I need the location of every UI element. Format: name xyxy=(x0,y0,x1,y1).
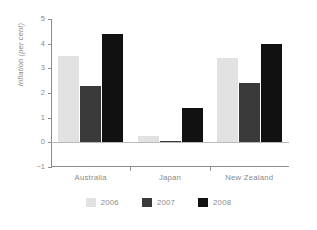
bar xyxy=(239,83,260,142)
legend-label: 2007 xyxy=(157,199,175,207)
y-tick-mark xyxy=(48,118,52,119)
legend-swatch-icon xyxy=(142,198,152,207)
y-tick-mark xyxy=(48,44,52,45)
bar xyxy=(182,108,203,143)
x-tick-mark xyxy=(130,167,131,171)
y-tick-label: 0 xyxy=(41,139,45,147)
y-tick-label: 1 xyxy=(41,114,45,122)
x-axis-line xyxy=(51,166,289,167)
x-axis-category-label: Australia xyxy=(75,173,107,182)
inflation-bar-chart: Inflation (per cent) 543210−1 2006200720… xyxy=(0,0,317,230)
bar xyxy=(80,86,101,143)
y-axis-title: Inflation (per cent) xyxy=(16,0,25,115)
chart-legend: 200620072008 xyxy=(0,198,317,207)
y-tick-mark xyxy=(48,68,52,69)
plot-area: 543210−1 xyxy=(51,19,289,167)
legend-label: 2006 xyxy=(101,199,119,207)
x-axis-category-label: Japan xyxy=(159,173,181,182)
legend-swatch-icon xyxy=(198,198,208,207)
bar xyxy=(217,58,238,142)
x-axis-category-label: New Zealand xyxy=(225,173,273,182)
zero-baseline xyxy=(51,142,289,143)
legend-item-2008[interactable]: 2008 xyxy=(198,198,231,207)
y-tick-label: −1 xyxy=(36,163,45,171)
bar xyxy=(160,141,181,142)
legend-label: 2008 xyxy=(213,199,231,207)
y-tick-label: 4 xyxy=(41,40,45,48)
y-tick-mark xyxy=(48,19,52,20)
bar xyxy=(138,136,159,142)
y-tick-mark xyxy=(48,167,52,168)
y-tick-label: 2 xyxy=(41,89,45,97)
y-tick-mark xyxy=(48,93,52,94)
x-tick-mark xyxy=(210,167,211,171)
legend-swatch-icon xyxy=(86,198,96,207)
legend-item-2007[interactable]: 2007 xyxy=(142,198,175,207)
y-tick-label: 3 xyxy=(41,65,45,73)
y-tick-label: 5 xyxy=(41,15,45,23)
legend-item-2006[interactable]: 2006 xyxy=(86,198,119,207)
bar xyxy=(102,34,123,143)
bar xyxy=(58,56,79,142)
bar xyxy=(261,44,282,143)
